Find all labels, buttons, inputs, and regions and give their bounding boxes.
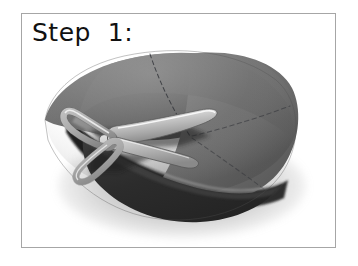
photo-frame: Step 1: xyxy=(21,13,336,248)
photo-scene xyxy=(22,14,335,247)
page-title: Step 1: xyxy=(32,20,133,46)
scissors xyxy=(60,92,238,192)
figure-root: Step 1: xyxy=(0,0,358,266)
